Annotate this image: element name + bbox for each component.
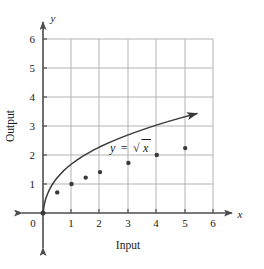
data-point-3 <box>126 161 130 165</box>
radical-sign-icon: √ <box>133 141 140 155</box>
data-point-1 <box>69 182 73 186</box>
equation-lhs: y <box>109 141 116 155</box>
x-tick-label-5: 5 <box>182 217 188 229</box>
graph-canvas: 0 1 2 3 4 5 6 1 2 3 4 5 6 x y Input Outp… <box>0 0 264 269</box>
x-tick-label-0: 0 <box>30 217 36 229</box>
y-axis-title: Output <box>4 109 17 142</box>
figure-background <box>0 0 264 269</box>
equation-equals: = <box>120 141 128 155</box>
y-axis-variable-label: y <box>50 12 56 24</box>
function-graph-figure: 0 1 2 3 4 5 6 1 2 3 4 5 6 x y Input Outp… <box>0 0 264 269</box>
y-tick-label-4: 4 <box>30 91 36 103</box>
data-point-0 <box>41 211 46 216</box>
y-tick-label-5: 5 <box>30 62 36 74</box>
y-tick-label-6: 6 <box>30 33 36 45</box>
x-tick-label-3: 3 <box>125 217 131 229</box>
x-tick-label-1: 1 <box>68 217 74 229</box>
data-point-2 <box>98 170 102 174</box>
x-axis-variable-label: x <box>237 208 243 220</box>
x-tick-label-6: 6 <box>210 217 216 229</box>
x-axis-title: Input <box>116 239 141 252</box>
y-tick-label-3: 3 <box>30 120 36 132</box>
x-tick-label-2: 2 <box>96 217 102 229</box>
data-point-0-5 <box>55 190 59 194</box>
x-tick-label-4: 4 <box>153 217 159 229</box>
y-tick-label-1: 1 <box>30 178 36 190</box>
data-point-4 <box>155 153 159 157</box>
y-tick-label-2: 2 <box>30 149 36 161</box>
data-point-1-5 <box>84 175 88 179</box>
data-point-5 <box>183 146 187 150</box>
equation-radicand: x <box>142 141 149 155</box>
